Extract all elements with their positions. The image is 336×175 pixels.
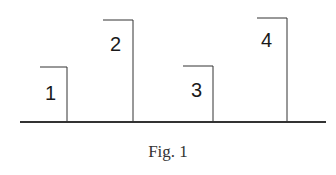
figure-caption: Fig. 1	[148, 142, 188, 161]
pillar-label-3: 3	[191, 79, 202, 101]
figure-diagram: 1 2 3 4 Fig. 1	[0, 0, 336, 175]
pillar-label-4: 4	[261, 29, 272, 51]
pillar-3: 3	[183, 66, 213, 122]
pillar-label-1: 1	[45, 82, 56, 104]
pillar-label-2: 2	[110, 33, 121, 55]
pillar-4: 4	[257, 18, 287, 122]
pillar-1: 1	[40, 67, 67, 122]
pillar-2: 2	[103, 20, 133, 122]
